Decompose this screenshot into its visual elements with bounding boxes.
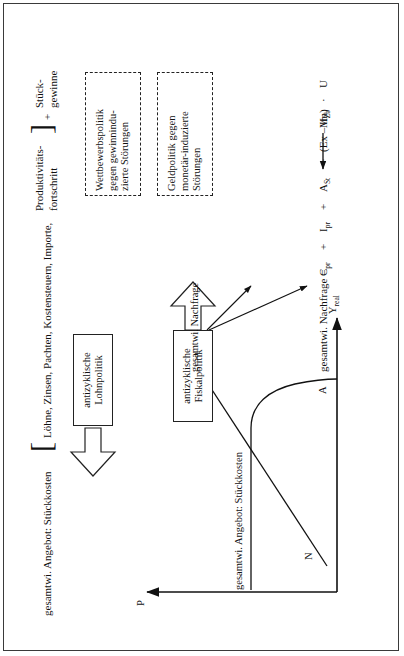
supply-tail-1: Stück- — [33, 79, 45, 108]
demand-plus-3: + — [317, 159, 329, 165]
wettbewerbspolitik-line-1: Wettbewerbspolitik — [94, 109, 107, 191]
dashed-box-wettbewerbspolitik: Wettbewerbspolitik gegen gewinnindu- zie… — [85, 72, 141, 196]
chart-supply-caption: gesamtwi. Angebot: Stückkosten — [233, 452, 245, 590]
supply-equation-lead: gesamtwi. Angebot: Stückkosten — [41, 471, 53, 616]
demand-plus-2: + — [317, 204, 329, 210]
block-arrow-wage-policy — [71, 428, 115, 476]
supply-bracket-items-3: fortschritt — [47, 168, 59, 211]
chart-curve-label-n: N — [303, 552, 315, 560]
demand-money-sub: Zb — [323, 110, 332, 118]
demand-term-a-sub: St — [323, 178, 332, 184]
demand-term-c-sub: pr — [323, 262, 332, 268]
chart-y-axis-label: P — [135, 600, 147, 606]
chart-curve-N — [203, 376, 327, 566]
policy-box-lohnpolitik: antizyklische Lohnpolitik — [73, 334, 113, 426]
demand-equation-lead: gesamtwi. Nachfrage = — [317, 270, 329, 372]
chart-x-axis-label-sub: real — [332, 295, 341, 306]
geldpolitik-line-3: Störungen — [191, 111, 204, 191]
demand-money-dot: · — [317, 98, 329, 102]
supply-bracket-items-2: Produktivitäts- — [33, 146, 45, 211]
arrow-fiscal-to-private — [207, 286, 307, 330]
chart-curve-A — [251, 379, 337, 590]
diagram-canvas: gesamtwi. Angebot: Stückkosten [ Löhne, … — [7, 8, 397, 648]
demand-term-i-sub: pr — [323, 222, 332, 228]
demand-money-velocity: U — [317, 80, 329, 88]
geldpolitik-line-1: Geldpolitik gegen — [166, 111, 179, 191]
lohnpolitik-line-2: Lohnpolitik — [93, 352, 105, 407]
lohnpolitik-line-1: antizyklische — [81, 352, 93, 407]
dashed-box-geldpolitik: Geldpolitik gegen monetär-induzierte Stö… — [157, 72, 213, 196]
supply-bracket-items: Löhne, Zinsen, Pachten, Kostensteuern, I… — [41, 223, 53, 438]
supply-plus: + — [41, 114, 53, 120]
chart-demand-caption: gesamtwi. Nachfrage — [189, 283, 201, 372]
demand-plus-1: + — [317, 244, 329, 250]
supply-bracket-close: ] — [24, 124, 58, 134]
demand-money-term: MZb — [317, 110, 333, 128]
supply-tail-2: gewinne — [47, 71, 59, 108]
figure-rotation-wrapper: gesamtwi. Angebot: Stückkosten [ Löhne, … — [0, 0, 404, 656]
wettbewerbspolitik-line-3: zierte Störungen — [119, 109, 132, 191]
demand-term-c: Cpr — [317, 262, 333, 276]
supply-bracket-open: [ — [24, 442, 58, 452]
demand-term-i: Ipr — [317, 222, 333, 232]
wettbewerbspolitik-line-2: gegen gewinnindu- — [107, 109, 120, 191]
chart-x-axis-label: Yreal — [327, 295, 341, 314]
demand-term-a: ASt — [317, 178, 333, 192]
geldpolitik-line-2: monetär-induzierte — [179, 111, 192, 191]
chart-curve-label-a: A — [317, 386, 329, 394]
